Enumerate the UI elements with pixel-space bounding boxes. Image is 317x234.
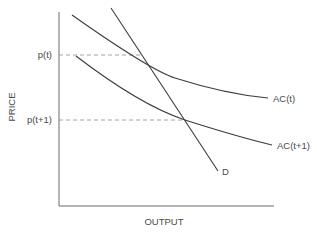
x-axis-label: OUTPUT: [144, 216, 183, 227]
demand-label: D: [222, 166, 229, 177]
p-t-label: p(t): [38, 49, 52, 60]
cost-demand-diagram: p(t) p(t+1) AC(t) AC(t+1) D OUTPUT PRICE: [0, 0, 317, 234]
ac-t1-label: AC(t+1): [277, 140, 310, 151]
y-axis-label: PRICE: [6, 92, 17, 121]
axes: [59, 12, 274, 206]
demand-curve: [111, 8, 218, 171]
ac-t-label: AC(t): [273, 93, 295, 104]
ac-t1-curve: [76, 56, 272, 145]
ac-t-curve: [72, 15, 268, 98]
p-t1-label: p(t+1): [27, 114, 52, 125]
